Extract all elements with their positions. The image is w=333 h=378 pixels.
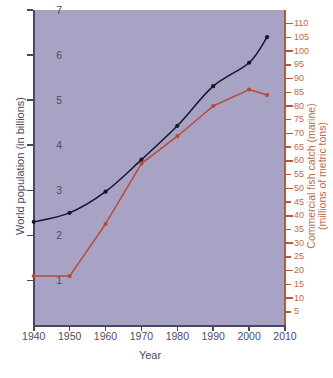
right-tick <box>286 270 293 272</box>
left-tick <box>27 99 33 101</box>
right-axis-title-line2: (millions of metric tons) <box>317 91 328 261</box>
right-tick <box>286 92 291 94</box>
left-tick-label: 5 <box>56 95 62 106</box>
left-tick-label: 7 <box>56 5 62 16</box>
right-tick <box>286 201 291 203</box>
right-tick <box>286 23 293 25</box>
right-tick-label: 40 <box>294 211 304 220</box>
right-tick <box>286 188 293 190</box>
right-tick-label: 65 <box>294 143 304 152</box>
x-tick-label: 1960 <box>86 331 126 342</box>
right-tick <box>286 146 291 148</box>
right-tick-label: 80 <box>294 102 304 111</box>
left-axis-title: World population (in billions) <box>14 76 26 256</box>
right-tick-label: 5 <box>294 307 299 316</box>
x-tick-label: 2000 <box>229 331 269 342</box>
left-tick <box>27 144 33 146</box>
chart-figure: 1234567 19401950196019701980199020002010… <box>0 0 333 378</box>
x-tick-label: 1980 <box>157 331 197 342</box>
right-tick-label: 15 <box>294 280 304 289</box>
left-tick <box>27 54 33 56</box>
right-tick <box>286 78 293 80</box>
left-tick <box>27 9 33 11</box>
right-tick <box>286 229 291 231</box>
x-tick-label: 1940 <box>14 331 54 342</box>
left-tick <box>27 190 33 192</box>
left-tick-label: 1 <box>56 275 62 286</box>
plot-area <box>33 10 285 325</box>
x-axis-title: Year <box>0 349 300 361</box>
right-tick-label: 70 <box>294 129 304 138</box>
right-tick <box>286 311 291 313</box>
left-tick-label: 2 <box>56 230 62 241</box>
right-tick-label: 110 <box>294 19 308 28</box>
x-tick-label: 1990 <box>193 331 233 342</box>
right-tick <box>286 215 293 217</box>
right-tick <box>286 174 291 176</box>
left-tick <box>27 235 33 237</box>
left-axis-line <box>33 10 35 326</box>
right-tick-label: 45 <box>294 198 304 207</box>
right-tick <box>286 119 291 121</box>
right-tick <box>286 297 293 299</box>
right-tick-label: 95 <box>294 60 304 69</box>
right-tick-label: 10 <box>294 294 304 303</box>
right-tick <box>286 64 291 66</box>
right-tick <box>286 50 293 52</box>
right-tick <box>286 160 293 162</box>
right-tick-label: 75 <box>294 115 304 124</box>
right-tick-label: 50 <box>294 184 304 193</box>
right-tick <box>286 242 293 244</box>
right-tick-label: 25 <box>294 252 304 261</box>
right-tick <box>286 37 291 39</box>
right-tick-label: 90 <box>294 74 304 83</box>
x-tick-label: 1950 <box>50 331 90 342</box>
left-tick-label: 3 <box>56 185 62 196</box>
right-tick <box>286 256 291 258</box>
right-tick-label: 85 <box>294 88 304 97</box>
right-tick-label: 55 <box>294 170 304 179</box>
left-tick-label: 4 <box>56 140 62 151</box>
right-tick-label: 100 <box>294 47 309 56</box>
right-tick-label: 20 <box>294 266 304 275</box>
x-tick-label: 1970 <box>121 331 161 342</box>
right-axis-title: Commercial fish catch (marine) (millions… <box>306 91 328 261</box>
right-axis-line <box>284 10 286 326</box>
x-tick-label: 2010 <box>265 331 305 342</box>
right-tick-label: 30 <box>294 239 304 248</box>
right-tick-label: 35 <box>294 225 304 234</box>
left-tick-label: 6 <box>56 50 62 61</box>
right-tick <box>286 133 293 135</box>
right-tick <box>286 105 293 107</box>
right-tick <box>286 284 291 286</box>
left-tick <box>27 280 33 282</box>
right-tick-label: 60 <box>294 156 304 165</box>
right-tick-label: 105 <box>294 33 309 42</box>
